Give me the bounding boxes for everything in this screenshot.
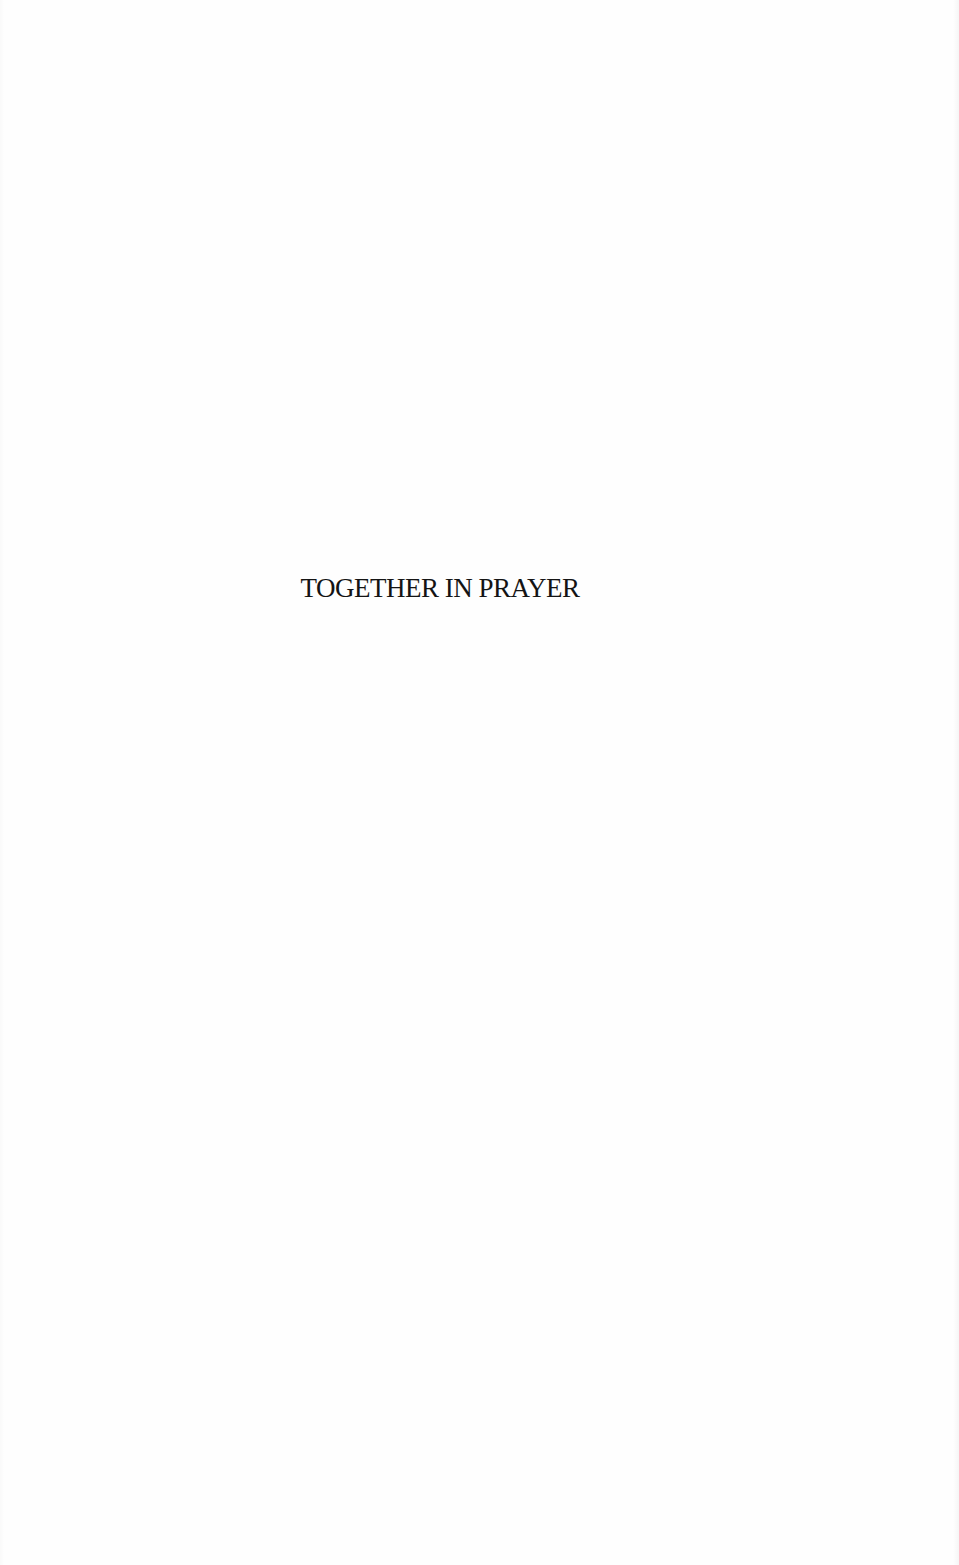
book-page: TOGETHER IN PRAYER — [0, 0, 959, 1565]
half-title: TOGETHER IN PRAYER — [0, 570, 880, 606]
page-edge-shadow-left — [0, 0, 4, 1565]
page-edge-shadow-right — [953, 0, 959, 1565]
